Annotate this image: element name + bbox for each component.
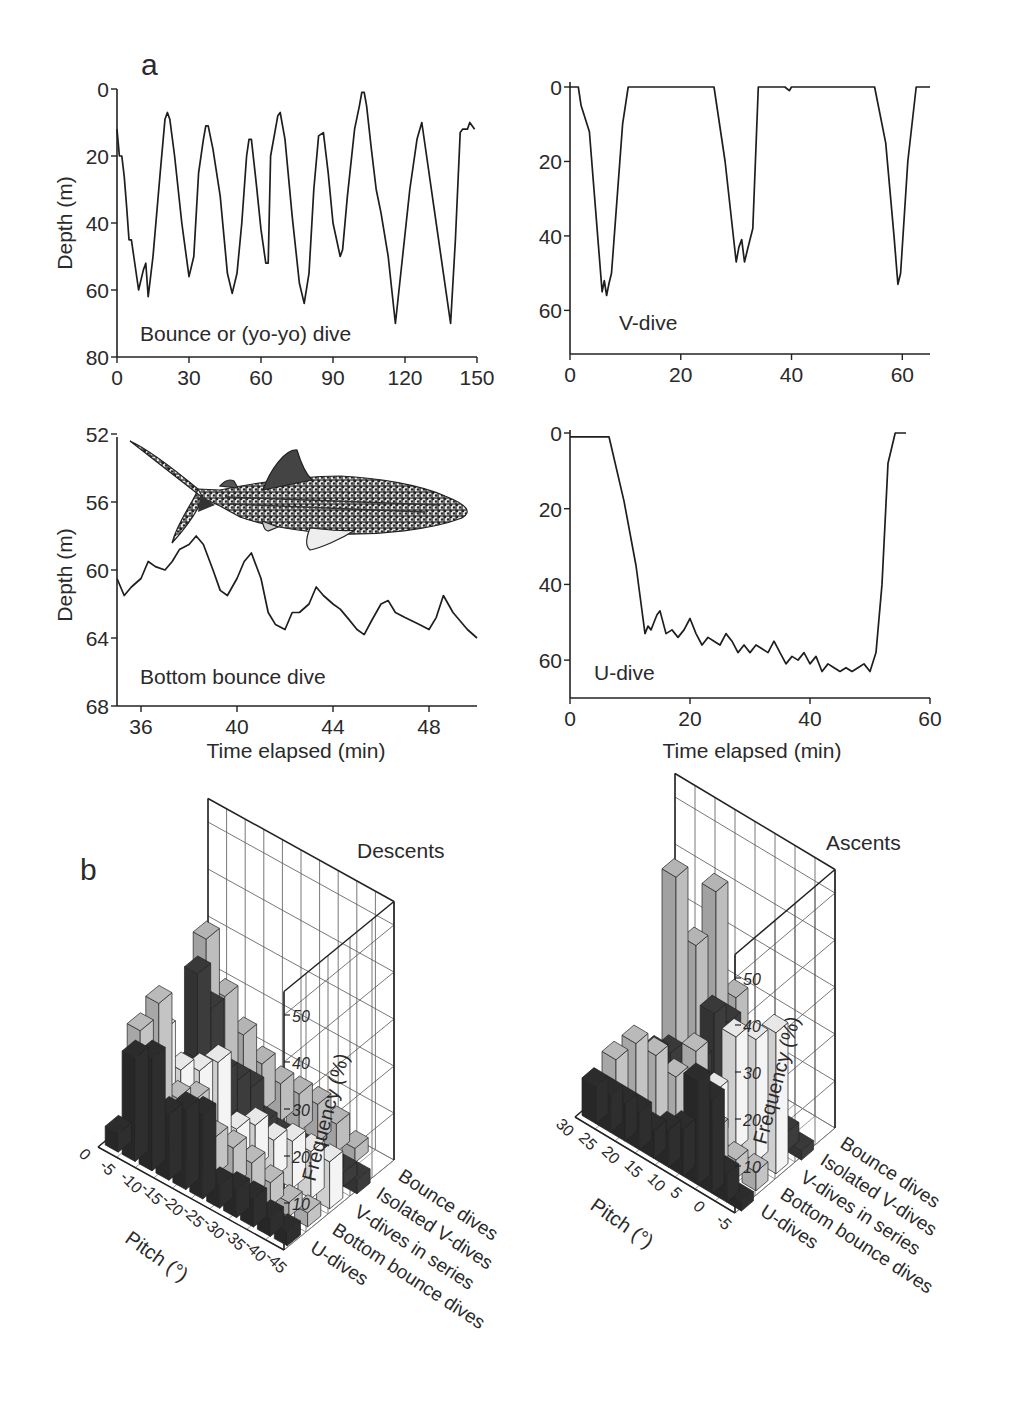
chart-bottom-bounce-dive: 525660646836404448Bottom bounce diveDept… bbox=[53, 423, 477, 762]
panel-label-a: a bbox=[141, 48, 158, 81]
y-tick-label: 20 bbox=[539, 150, 562, 173]
pitch-tick-label: 0 bbox=[76, 1145, 94, 1163]
y-tick-label: 60 bbox=[539, 649, 562, 672]
x-tick-label: 0 bbox=[564, 707, 576, 730]
chart-v-dive: 02040600204060V-dive bbox=[539, 76, 930, 386]
depth-trace bbox=[117, 92, 475, 323]
y-tick-label: 0 bbox=[97, 78, 109, 101]
y-tick-label: 68 bbox=[86, 695, 109, 718]
chart-title: Ascents bbox=[826, 831, 901, 854]
x-tick-label: 30 bbox=[177, 366, 200, 389]
x-tick-label: 40 bbox=[225, 715, 248, 738]
pitch-tick-label: -5 bbox=[97, 1157, 119, 1179]
y-tick-label: 60 bbox=[86, 559, 109, 582]
y-tick-label: 20 bbox=[539, 498, 562, 521]
figure-canvas: a b 0204060800306090120150Bounce or (yo-… bbox=[0, 0, 1028, 1401]
frequency-tick-label: 40 bbox=[292, 1055, 310, 1072]
y-tick-label: 0 bbox=[550, 76, 562, 99]
pitch-tick-label: 25 bbox=[576, 1129, 601, 1154]
frequency-tick-label: 30 bbox=[743, 1065, 761, 1082]
x-tick-label: 36 bbox=[129, 715, 152, 738]
y-tick-label: 20 bbox=[86, 145, 109, 168]
x-axis-title: Time elapsed (min) bbox=[663, 739, 842, 762]
x-tick-label: 40 bbox=[798, 707, 821, 730]
frequency-tick-label: 40 bbox=[743, 1018, 761, 1035]
whale-shark-illustration bbox=[130, 441, 467, 550]
depth-trace bbox=[570, 87, 930, 296]
chart-descents-3d-bars: 0-5-10-15-20-25-30-35-40-45Pitch (°)Boun… bbox=[76, 799, 502, 1334]
dive-type-annotation: Bounce or (yo-yo) dive bbox=[140, 322, 351, 345]
y-tick-label: 60 bbox=[539, 299, 562, 322]
y-tick-label: 52 bbox=[86, 423, 109, 446]
pitch-axis-title: Pitch (°) bbox=[587, 1193, 658, 1252]
y-axis-title: Depth (m) bbox=[53, 528, 76, 621]
frequency-tick-label: 30 bbox=[292, 1102, 310, 1119]
x-tick-label: 0 bbox=[111, 366, 123, 389]
frequency-tick-label: 10 bbox=[743, 1159, 761, 1176]
pitch-axis-title: Pitch (°) bbox=[121, 1227, 192, 1286]
depth-trace bbox=[117, 536, 477, 638]
dive-type-annotation: Bottom bounce dive bbox=[140, 665, 326, 688]
x-tick-label: 60 bbox=[918, 707, 941, 730]
dive-type-annotation: V-dive bbox=[619, 311, 677, 334]
x-tick-label: 20 bbox=[678, 707, 701, 730]
frequency-tick-label: 50 bbox=[292, 1008, 310, 1025]
chart-u-dive: 02040600204060U-diveTime elapsed (min) bbox=[539, 422, 942, 762]
pitch-tick-label: -5 bbox=[713, 1211, 735, 1233]
dive-type-annotation: U-dive bbox=[594, 661, 655, 684]
y-tick-label: 56 bbox=[86, 491, 109, 514]
frequency-tick-label: 50 bbox=[743, 971, 761, 988]
frequency-tick-label: 10 bbox=[292, 1196, 310, 1213]
x-tick-label: 90 bbox=[321, 366, 344, 389]
x-tick-label: 20 bbox=[669, 363, 692, 386]
panel-label-b: b bbox=[80, 853, 97, 886]
x-tick-label: 48 bbox=[417, 715, 440, 738]
x-tick-label: 60 bbox=[249, 366, 272, 389]
y-tick-label: 40 bbox=[86, 212, 109, 235]
chart-bounce-dive: 0204060800306090120150Bounce or (yo-yo) … bbox=[53, 78, 495, 389]
pitch-tick-label: 15 bbox=[621, 1156, 646, 1181]
pitch-tick-label: 10 bbox=[644, 1170, 669, 1195]
y-axis-title: Depth (m) bbox=[53, 176, 76, 269]
y-tick-label: 40 bbox=[539, 225, 562, 248]
y-tick-label: 0 bbox=[550, 422, 562, 445]
y-tick-label: 80 bbox=[86, 346, 109, 369]
pitch-tick-label: 5 bbox=[667, 1184, 685, 1202]
x-axis-title: Time elapsed (min) bbox=[207, 739, 386, 762]
x-tick-label: 0 bbox=[564, 363, 576, 386]
pitch-tick-label: 20 bbox=[599, 1143, 624, 1168]
pitch-tick-label: 30 bbox=[553, 1115, 578, 1140]
x-tick-label: 40 bbox=[780, 363, 803, 386]
chart-ascents-3d-bars: 302520151050-5Pitch (°)Bounce divesIsola… bbox=[553, 774, 944, 1298]
depth-trace bbox=[570, 433, 906, 672]
y-tick-label: 40 bbox=[539, 573, 562, 596]
x-tick-label: 60 bbox=[891, 363, 914, 386]
x-tick-label: 150 bbox=[459, 366, 494, 389]
y-tick-label: 60 bbox=[86, 279, 109, 302]
y-tick-label: 64 bbox=[86, 627, 110, 650]
x-tick-label: 44 bbox=[321, 715, 345, 738]
x-tick-label: 120 bbox=[387, 366, 422, 389]
pitch-tick-label: 0 bbox=[690, 1197, 708, 1215]
chart-title: Descents bbox=[357, 839, 445, 862]
